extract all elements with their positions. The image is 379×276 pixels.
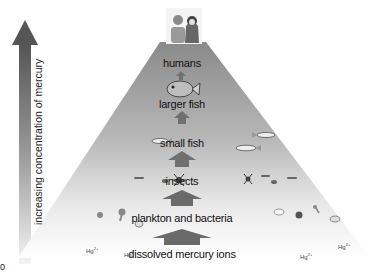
- axis-label: increasing concentration of mercury: [32, 59, 44, 225]
- mercury-ion-label: Hg2+: [338, 242, 350, 250]
- people-icon: [166, 8, 202, 44]
- level-label-humans: humans: [163, 57, 201, 69]
- mercury-ion-label: Hg2+: [86, 246, 98, 254]
- corner-text: 0: [0, 262, 5, 272]
- food-pyramid: [18, 42, 370, 258]
- level-label-plankton: plankton and bacteria: [132, 212, 233, 224]
- level-label-insects: insects: [166, 175, 199, 187]
- concentration-arrow-head: [12, 20, 38, 45]
- mercury-ion-label: Hg2+: [300, 252, 312, 260]
- level-label-small-fish: small fish: [160, 137, 204, 149]
- concentration-arrow-shaft: [19, 44, 31, 264]
- level-label-larger-fish: larger fish: [159, 98, 205, 110]
- level-label-dissolved-ions: dissolved mercury ions: [128, 248, 235, 260]
- mercury-ion-label: Hg2+: [124, 250, 136, 258]
